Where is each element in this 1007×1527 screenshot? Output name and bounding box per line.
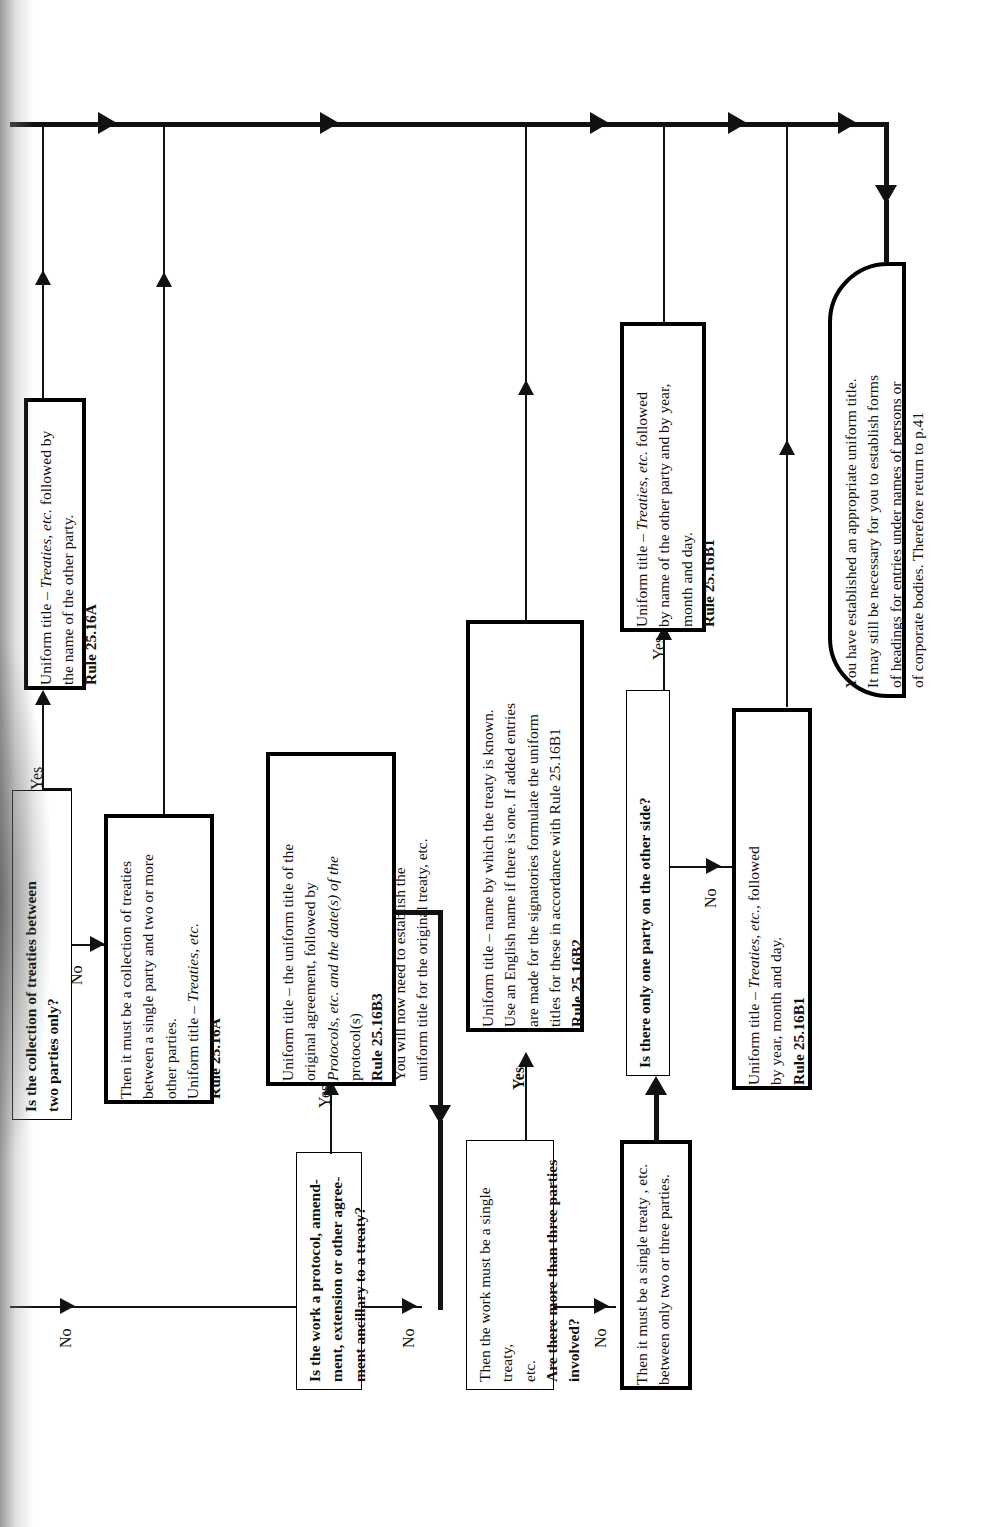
outcome-many-rule: Rule 25.16B2 — [566, 633, 588, 1027]
outcome-many-line4: titles for these in accordance with Rule… — [544, 633, 566, 1027]
decision-collection-two-parties-line2: two parties only? — [42, 800, 64, 1112]
decision-more-than-three[interactable]: Then the work must be a single treaty, e… — [466, 1140, 554, 1390]
outcome-one-rule: Rule 25.16B1 — [698, 335, 720, 627]
riser-two-or-three — [786, 124, 788, 707]
outcome-many-line3: are made for the signatories formulate t… — [522, 633, 544, 1027]
entry-arrow-icon — [60, 1298, 75, 1314]
outcome-protocol-line5: You will now need to establish the — [389, 765, 411, 1081]
bus-to-end-line-2 — [884, 200, 889, 262]
decision-protocol-line2: ment, extension or other agree- — [326, 1162, 348, 1382]
bus-arrow-4-icon — [728, 112, 747, 134]
outcome-b-line1: Then it must be a collection of treaties — [115, 827, 137, 1099]
bus-arrow-3-icon — [590, 112, 609, 134]
decision-collection-two-parties[interactable]: Is the collection of treaties between tw… — [12, 790, 72, 1120]
decision-collection-two-parties-line1: Is the collection of treaties between — [20, 800, 42, 1112]
edge-no-oneparty — [670, 866, 732, 868]
bus-arrow-1-icon — [98, 112, 117, 134]
bus-arrow-2-icon — [320, 112, 339, 134]
edge-no-mt3-arrow-icon — [594, 1298, 609, 1314]
label-no-collection: No — [68, 965, 86, 985]
edge-state-to-oneparty-arrow-icon — [645, 1076, 667, 1095]
label-no-oneparty: No — [702, 888, 720, 908]
bus-arrow-5-icon — [838, 112, 857, 134]
riser-arrow-e-icon — [779, 440, 795, 455]
outcome-collection-multi[interactable]: Then it must be a collection of treaties… — [104, 814, 214, 1104]
outcome-one-party[interactable]: Uniform title – Treaties, etc. followed … — [620, 322, 706, 632]
scan-gutter-shadow — [0, 0, 34, 1527]
outcome-protocol-line3: Protocols, etc. and the date(s) of the — [322, 765, 344, 1081]
label-no-mt3: No — [592, 1328, 610, 1348]
edge-no-collection-arrow-icon — [90, 936, 105, 952]
edge-yes-mt3-arrow-icon — [518, 1052, 534, 1067]
decision-protocol-line3: ment ancillary to a treaty? — [349, 1162, 371, 1382]
outcome-a-rule: Rule 25.16A — [80, 411, 102, 685]
decision-protocol-line1: Is the work a protocol, amend- — [304, 1162, 326, 1382]
outcome-one-line2: by name of the other party and by year, — [653, 335, 675, 627]
label-yes-oneparty: Yes — [650, 637, 668, 660]
outcome-one-line1: Uniform title – Treaties, etc. followed — [631, 335, 653, 627]
riser-collection-multi — [163, 124, 165, 814]
label-yes-mt3: Yes — [510, 1067, 528, 1090]
protocol-loopback-v2 — [438, 1120, 443, 1310]
riser-many-parties — [525, 124, 527, 632]
outcome-protocol-rule: Rule 25.16B3 — [366, 765, 388, 1081]
decision-one-party[interactable]: Is there only one party on the other sid… — [626, 690, 670, 1076]
label-no-protocol: No — [400, 1328, 418, 1348]
riser-arrow-b-icon — [156, 272, 172, 287]
outcome-two-or-three-parties[interactable]: Uniform title – Treaties, etc., followed… — [732, 708, 812, 1090]
decision-mt3-line1: Then the work must be a single treaty, — [474, 1150, 519, 1382]
outcome-23-line2: by year, month and day. — [765, 721, 787, 1085]
terminal-line1: You have established an appropriate unif… — [840, 280, 862, 688]
state-two-or-three-parties[interactable]: Then it must be a single treaty , etc. b… — [620, 1140, 692, 1390]
outcome-protocol-line6: uniform title for the original treaty, e… — [411, 765, 433, 1081]
outcome-a-line1: Uniform title – Treaties, etc. followed … — [35, 411, 57, 685]
riser-arrow-c-icon — [518, 380, 534, 395]
outcome-23-rule: Rule 25.16B1 — [788, 721, 810, 1085]
entry-line — [10, 1306, 300, 1308]
outcome-b-line3: other parties. — [160, 827, 182, 1099]
state-23-line2: between only two or three parties. — [653, 1153, 675, 1385]
terminal-line2: It may still be necessary for you to est… — [862, 280, 884, 688]
terminal-established[interactable]: You have established an appropriate unif… — [828, 262, 906, 698]
label-yes-collection: Yes — [28, 767, 46, 790]
outcome-b-rule: Rule 25.16A — [204, 827, 226, 1099]
riser-arrow-a-icon — [35, 270, 51, 285]
outcome-many-parties[interactable]: Uniform title – name by which the treaty… — [466, 620, 584, 1032]
decision-mt3-line2: etc. — [519, 1150, 541, 1382]
outcome-b-line4: Uniform title – Treaties, etc. — [182, 827, 204, 1099]
outcome-protocol-line1: Uniform title – the uniform title of the — [277, 765, 299, 1081]
edge-no-protocol-arrow-icon — [402, 1298, 417, 1314]
protocol-loopback-v — [438, 910, 443, 1110]
bus-to-end-line — [884, 122, 889, 188]
outcome-protocol[interactable]: Uniform title – the uniform title of the… — [266, 752, 396, 1086]
state-23-line1: Then it must be a single treaty , etc. — [631, 1153, 653, 1385]
outcome-a-line2: the name of the other party. — [57, 411, 79, 685]
edge-no-oneparty-arrow-icon — [706, 858, 721, 874]
label-no-entry: No — [57, 1328, 75, 1348]
riser-one-party — [663, 124, 665, 322]
terminal-line4: of corporate bodies. Therefore return to… — [907, 280, 929, 688]
decision-one-party-text: Is there only one party on the other sid… — [634, 700, 656, 1068]
decision-mt3-line4: involved? — [563, 1150, 585, 1382]
decision-mt3-line3: Are there more than three parties — [541, 1150, 563, 1382]
outcome-one-line3: month and day. — [676, 335, 698, 627]
outcome-protocol-line2: original agreement, followed by — [299, 765, 321, 1081]
edge-yes-collection — [42, 788, 72, 790]
protocol-loopback-h — [396, 910, 442, 915]
flowchart-page: Is the collection of treaties between tw… — [0, 0, 1007, 1527]
terminal-line3: of headings for entries under names of p… — [885, 280, 907, 688]
outcome-b-line2: between a single party and two or more — [137, 827, 159, 1099]
outcome-collection-two-parties[interactable]: Uniform title – Treaties, etc. followed … — [24, 398, 86, 690]
outcome-many-line2: Use an English name if there is one. If … — [499, 633, 521, 1027]
outcome-protocol-line4: protocol(s) — [344, 765, 366, 1081]
outcome-23-line1: Uniform title – Treaties, etc., followed — [743, 721, 765, 1085]
decision-protocol[interactable]: Is the work a protocol, amend- ment, ext… — [296, 1152, 362, 1390]
collector-bus-line — [10, 122, 888, 127]
riser-collection-two-parties — [42, 124, 44, 399]
outcome-many-line1: Uniform title – name by which the treaty… — [477, 633, 499, 1027]
